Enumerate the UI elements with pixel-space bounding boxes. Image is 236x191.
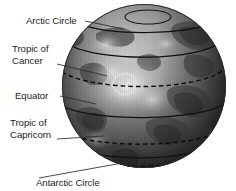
- label-equator: Equator: [15, 90, 49, 101]
- label-antarctic-circle: Antarctic Circle: [36, 177, 100, 188]
- leader-antarctic-circle: [39, 162, 128, 178]
- label-tropic-of-capricorn-line1: Tropic of: [10, 117, 47, 128]
- earth-globe: [60, 4, 228, 172]
- label-arctic-circle: Arctic Circle: [26, 15, 77, 26]
- globe-diagram-figure: Arctic Circle Tropic of Cancer Equator T…: [0, 0, 236, 191]
- label-tropic-of-capricorn-line2: Capricorn: [10, 129, 51, 140]
- globe-diagram-canvas: Arctic Circle Tropic of Cancer Equator T…: [0, 0, 236, 191]
- label-tropic-of-cancer-line2: Cancer: [12, 55, 43, 66]
- label-tropic-of-cancer-line1: Tropic of: [12, 43, 49, 54]
